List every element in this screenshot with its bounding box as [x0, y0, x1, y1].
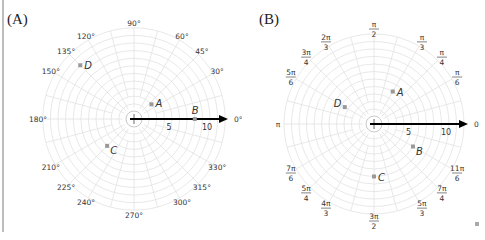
panel-label-a: (A): [7, 11, 28, 28]
angle-label: 5π6: [286, 68, 296, 87]
point-d: D: [334, 98, 347, 109]
svg-text:4: 4: [304, 58, 309, 67]
polar-grid-b: 5100π6π4π3π22π33π45π6π7π65π44π33π25π37π4…: [242, 0, 485, 240]
svg-text:6: 6: [288, 174, 293, 183]
radial-tick-label: 10: [202, 123, 212, 132]
svg-text:6: 6: [455, 174, 460, 183]
point-a: A: [149, 98, 162, 109]
svg-text:3: 3: [420, 209, 425, 218]
svg-text:3: 3: [420, 43, 425, 52]
polar-chart-degrees: (A) 5100°30°45°60°90°120°135°150°180°210…: [0, 0, 242, 240]
angle-label: 5π4: [301, 184, 311, 203]
svg-text:5π: 5π: [301, 184, 311, 193]
svg-text:D: D: [84, 60, 92, 71]
angle-label: 4π3: [321, 199, 331, 218]
svg-text:B: B: [192, 105, 199, 116]
svg-text:7π: 7π: [437, 184, 447, 193]
svg-text:4π: 4π: [321, 199, 331, 208]
angle-label: 315°: [193, 183, 211, 192]
angle-label: 3π4: [301, 48, 311, 67]
svg-text:6: 6: [455, 78, 460, 87]
angle-label: 120°: [77, 32, 95, 41]
angle-label: π3: [417, 33, 427, 52]
panel-label-b: (B): [259, 11, 279, 28]
radial-tick-label: 5: [406, 128, 411, 137]
svg-text:240°: 240°: [77, 198, 95, 207]
point-c: C: [105, 144, 117, 156]
point-d: D: [78, 60, 92, 71]
angle-label: 270°: [125, 211, 143, 220]
angle-label: 300°: [173, 198, 191, 207]
svg-text:30°: 30°: [210, 67, 224, 76]
angle-label: 2π3: [321, 33, 331, 52]
angle-label: 330°: [208, 163, 226, 172]
svg-text:60°: 60°: [175, 32, 189, 41]
angle-label: 60°: [175, 32, 189, 41]
angle-label: 0°: [234, 115, 242, 124]
svg-text:7π: 7π: [286, 164, 296, 173]
svg-text:3π: 3π: [369, 212, 379, 221]
angle-label: 135°: [57, 47, 75, 56]
angle-label: π6: [452, 68, 462, 87]
angle-label: 180°: [29, 115, 47, 124]
corner-marker: [475, 222, 479, 226]
angle-label: 210°: [42, 163, 60, 172]
angle-label: 3π2: [369, 212, 379, 231]
svg-text:120°: 120°: [77, 32, 95, 41]
svg-text:5π: 5π: [286, 68, 296, 77]
svg-text:4: 4: [439, 58, 444, 67]
angle-label: π4: [437, 48, 447, 67]
svg-text:3: 3: [324, 209, 329, 218]
point-a: A: [391, 87, 404, 98]
angle-label: π: [276, 120, 281, 129]
angle-label: 0: [474, 120, 479, 129]
svg-text:315°: 315°: [193, 183, 211, 192]
svg-text:0: 0: [474, 120, 479, 129]
svg-text:2: 2: [372, 30, 377, 39]
svg-text:π: π: [276, 120, 281, 129]
svg-text:C: C: [110, 145, 117, 156]
svg-text:3: 3: [324, 43, 329, 52]
arrow-head-icon: [219, 115, 228, 123]
angle-label: 7π4: [437, 184, 447, 203]
polar-grid-a: 5100°30°45°60°90°120°135°150°180°210°225…: [0, 0, 242, 240]
svg-text:4: 4: [304, 194, 309, 203]
svg-text:D: D: [334, 98, 342, 109]
arrow-head-icon: [459, 120, 468, 128]
svg-text:11π: 11π: [450, 164, 465, 173]
angle-label: π2: [369, 20, 379, 39]
svg-text:4: 4: [439, 194, 444, 203]
svg-text:2: 2: [372, 222, 377, 231]
point-b: B: [411, 145, 423, 157]
svg-text:π: π: [420, 33, 425, 42]
svg-text:225°: 225°: [57, 183, 75, 192]
svg-text:270°: 270°: [125, 211, 143, 220]
svg-text:π: π: [455, 68, 460, 77]
svg-text:B: B: [416, 146, 423, 157]
svg-text:0°: 0°: [234, 115, 242, 124]
svg-text:5π: 5π: [417, 199, 427, 208]
polar-chart-radians: (B) 5100π6π4π3π22π33π45π6π7π65π44π33π25π…: [242, 0, 485, 240]
radial-tick-label: 10: [441, 128, 451, 137]
svg-text:π: π: [440, 48, 445, 57]
svg-text:6: 6: [288, 78, 293, 87]
svg-text:A: A: [396, 87, 404, 98]
svg-text:90°: 90°: [127, 19, 141, 28]
angle-label: 11π6: [450, 164, 465, 183]
angle-label: 5π3: [417, 199, 427, 218]
svg-text:330°: 330°: [208, 163, 226, 172]
angle-label: 45°: [195, 47, 209, 56]
svg-text:3π: 3π: [301, 48, 311, 57]
svg-text:300°: 300°: [173, 198, 191, 207]
svg-text:A: A: [154, 98, 162, 109]
svg-text:210°: 210°: [42, 163, 60, 172]
angle-label: 30°: [210, 67, 224, 76]
svg-text:π: π: [372, 20, 377, 29]
svg-text:2π: 2π: [321, 33, 331, 42]
angle-label: 150°: [42, 67, 60, 76]
svg-text:135°: 135°: [57, 47, 75, 56]
angle-label: 7π6: [286, 164, 296, 183]
radial-tick-label: 5: [166, 123, 171, 132]
angle-label: 225°: [57, 183, 75, 192]
svg-text:150°: 150°: [42, 67, 60, 76]
